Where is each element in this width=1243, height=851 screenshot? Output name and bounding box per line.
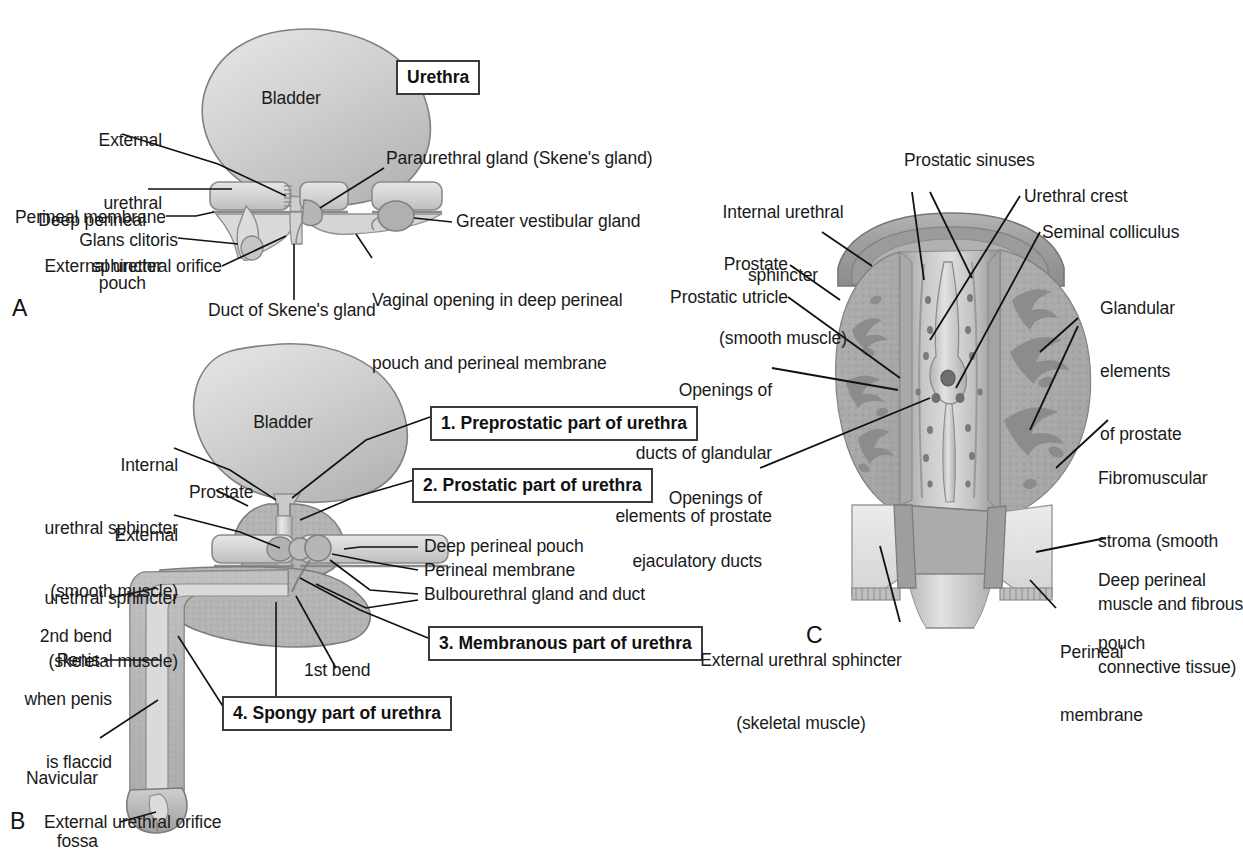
- line: ejaculatory ducts: [596, 551, 762, 572]
- label-deep-perineal-pouch-b: Deep perineal pouch: [424, 536, 584, 557]
- label-perineal-membrane-a: Perineal membrane: [2, 207, 166, 228]
- line: Openings of: [596, 380, 772, 401]
- line: Fibromuscular: [1098, 468, 1243, 489]
- line: Internal urethral: [690, 202, 876, 223]
- line: Navicular: [0, 768, 98, 789]
- label-prostate-c: Prostate: [648, 254, 788, 275]
- label-vaginal-opening-a: Vaginal opening in deep perineal pouch a…: [372, 248, 622, 416]
- label-prostatic-utricle-c: Prostatic utricle: [620, 287, 788, 308]
- line: External: [10, 130, 162, 151]
- label-prostate-b: Prostate: [189, 482, 253, 503]
- label-duct-of-skenes-gland-a: Duct of Skene's gland: [208, 300, 376, 321]
- label-external-urethral-orifice-a: External urethral orifice: [2, 256, 222, 277]
- line: Openings of: [596, 488, 762, 509]
- boxed-label-urethra: Urethra: [396, 60, 480, 95]
- label-seminal-colliculus-c: Seminal colliculus: [1042, 222, 1179, 243]
- label-1st-bend-b: 1st bend: [304, 660, 370, 681]
- line: Deep perineal: [1098, 570, 1206, 591]
- label-perineal-membrane-c: Perineal membrane: [1060, 600, 1143, 768]
- line: 2nd bend: [0, 626, 112, 647]
- line: pouch and perineal membrane: [372, 353, 622, 374]
- line: External: [0, 525, 178, 546]
- line: elements: [1100, 361, 1182, 382]
- line: Internal: [0, 455, 178, 476]
- line: Glandular: [1100, 298, 1182, 319]
- label-external-urethral-orifice-b: External urethral orifice: [44, 812, 221, 833]
- label-greater-vestibular-gland-a: Greater vestibular gland: [456, 211, 640, 232]
- line: (skeletal muscle): [676, 713, 926, 734]
- line: fossa: [0, 831, 98, 851]
- label-penis-b: Penis: [0, 650, 100, 671]
- line: membrane: [1060, 705, 1143, 726]
- line: Vaginal opening in deep perineal: [372, 290, 622, 311]
- label-glans-clitoris-a: Glans clitoris: [20, 230, 178, 251]
- label-paraurethral-gland-a: Paraurethral gland (Skene's gland): [386, 148, 653, 169]
- line: External urethral sphincter: [676, 650, 926, 671]
- line: Perineal: [1060, 642, 1143, 663]
- boxed-label-spongy-part: 4. Spongy part of urethra: [222, 696, 452, 731]
- panel-letter-a: A: [12, 297, 27, 320]
- label-prostatic-sinuses-c: Prostatic sinuses: [904, 150, 1035, 171]
- label-urethral-crest-c: Urethral crest: [1024, 186, 1128, 207]
- line: when penis: [0, 689, 112, 710]
- label-perineal-membrane-b: Perineal membrane: [424, 560, 575, 581]
- label-bladder-b: Bladder: [228, 412, 338, 433]
- panel-letter-c: C: [806, 624, 823, 647]
- label-bladder-a: Bladder: [236, 88, 346, 109]
- boxed-label-membranous-part: 3. Membranous part of urethra: [428, 626, 703, 661]
- label-external-urethral-sphincter-c: External urethral sphincter (skeletal mu…: [676, 608, 926, 776]
- panel-letter-b: B: [10, 810, 25, 833]
- label-openings-of-ejaculatory-ducts-c: Openings of ejaculatory ducts: [596, 446, 762, 614]
